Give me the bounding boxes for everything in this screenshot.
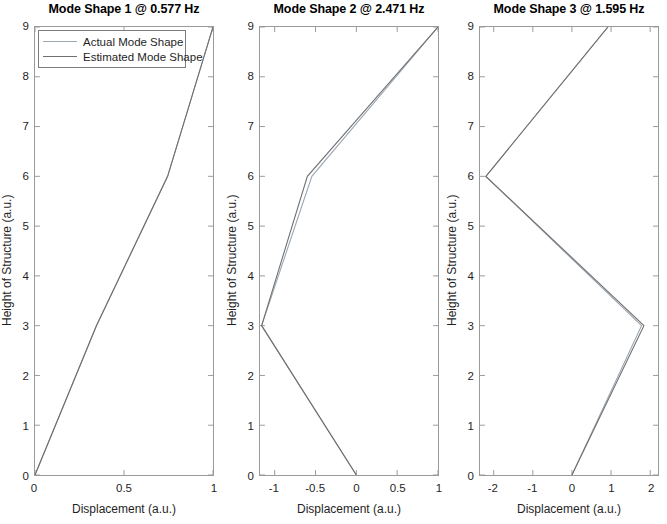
y-tick-label: 5 [14,220,29,232]
series-line-actual [35,27,213,475]
x-tick-label: -1 [269,482,279,494]
legend-label: Actual Mode Shape [83,36,183,48]
y-tick-label: 8 [14,70,29,82]
legend-label: Estimated Mode Shape [83,51,203,63]
y-tick-label: 3 [14,320,29,332]
y-tick-label: 8 [239,70,254,82]
y-tick-label: 2 [239,370,254,382]
plot-canvas-3 [480,27,658,475]
panel-title-2: Mode Shape 2 @ 2.471 Hz [241,2,457,16]
panel-3: Mode Shape 3 @ 1.595 Hz-2-10120123456789… [445,0,667,524]
series-line-estimated [486,27,644,475]
y-tick-label: 1 [459,420,474,432]
plot-area-3 [479,26,659,476]
y-tick-label: 0 [239,470,254,482]
series-line-actual [262,27,438,475]
y-tick-label: 4 [14,270,29,282]
y-tick-label: 7 [14,120,29,132]
plot-area-1 [34,26,214,476]
y-axis-label: Height of Structure (a.u.) [0,195,14,326]
panel-1: Mode Shape 1 @ 0.577 Hz00.510123456789Di… [0,0,225,524]
legend-entry: Estimated Mode Shape [43,49,180,64]
y-tick-label: 6 [14,170,29,182]
x-tick-label: 0 [569,482,575,494]
y-tick-label: 7 [459,120,474,132]
mode-shape-figure: Mode Shape 1 @ 0.577 Hz00.510123456789Di… [0,0,667,524]
y-tick-label: 9 [14,20,29,32]
x-tick-label: -0.5 [305,482,325,494]
y-tick-label: 6 [459,170,474,182]
series-line-estimated [35,27,213,475]
y-tick-label: 4 [459,270,474,282]
series-line-actual [486,27,642,475]
y-tick-label: 0 [14,470,29,482]
series-line-estimated [262,27,438,475]
y-tick-label: 5 [239,220,254,232]
y-tick-label: 1 [14,420,29,432]
x-tick-label: 1 [436,482,442,494]
x-axis-label: Displacement (a.u.) [479,502,659,516]
x-tick-label: 2 [648,482,654,494]
legend-entry: Actual Mode Shape [43,34,180,49]
y-tick-label: 0 [459,470,474,482]
x-tick-label: 0.5 [116,482,132,494]
x-tick-label: 0 [353,482,359,494]
y-tick-label: 3 [459,320,474,332]
y-axis-label: Height of Structure (a.u.) [225,195,239,326]
legend-box: Actual Mode ShapeEstimated Mode Shape [38,30,186,68]
x-axis-label: Displacement (a.u.) [259,502,439,516]
legend-swatch [43,56,77,57]
y-tick-label: 9 [239,20,254,32]
panel-title-3: Mode Shape 3 @ 1.595 Hz [461,2,667,16]
x-axis-label: Displacement (a.u.) [34,502,214,516]
plot-canvas-2 [260,27,438,475]
x-tick-label: -1 [527,482,537,494]
y-tick-label: 7 [239,120,254,132]
legend-swatch [43,41,77,42]
y-tick-label: 2 [459,370,474,382]
y-tick-label: 5 [459,220,474,232]
y-tick-label: 6 [239,170,254,182]
y-tick-label: 8 [459,70,474,82]
x-tick-label: -2 [488,482,498,494]
panel-2: Mode Shape 2 @ 2.471 Hz-1-0.500.51012345… [225,0,450,524]
plot-canvas-1 [35,27,213,475]
x-tick-label: 0.5 [390,482,406,494]
x-tick-label: 1 [211,482,217,494]
y-tick-label: 2 [14,370,29,382]
y-tick-label: 1 [239,420,254,432]
y-tick-label: 3 [239,320,254,332]
plot-area-2 [259,26,439,476]
y-tick-label: 4 [239,270,254,282]
y-tick-label: 9 [459,20,474,32]
x-tick-label: 0 [31,482,37,494]
y-axis-label: Height of Structure (a.u.) [445,195,459,326]
x-tick-label: 1 [608,482,614,494]
panel-title-1: Mode Shape 1 @ 0.577 Hz [16,2,232,16]
